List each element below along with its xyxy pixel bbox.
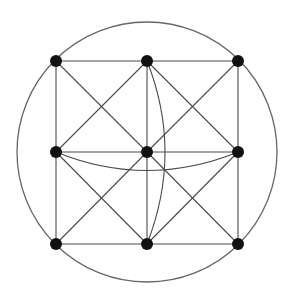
node-n20 xyxy=(50,238,62,250)
node-n11 xyxy=(141,146,153,158)
graph-diagram xyxy=(0,0,297,299)
node-n02 xyxy=(232,55,244,67)
node-n00 xyxy=(50,55,62,67)
node-n21 xyxy=(141,238,153,250)
node-n01 xyxy=(141,55,153,67)
node-n12 xyxy=(232,146,244,158)
node-n10 xyxy=(50,146,62,158)
node-n22 xyxy=(232,238,244,250)
